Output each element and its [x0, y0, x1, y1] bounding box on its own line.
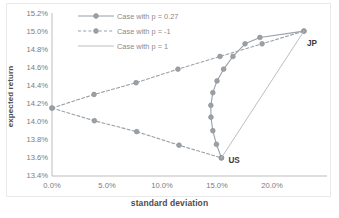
y-tick-label: 13.8%: [14, 135, 48, 144]
y-tick-label: 14.0%: [14, 117, 48, 126]
legend-label-2: Case with p = 1: [117, 42, 168, 51]
x-tick-label: 15.0%: [197, 181, 237, 190]
data-point-marker: [209, 115, 214, 120]
series-line: [211, 31, 304, 158]
data-point-marker: [210, 90, 215, 95]
y-tick-label: 15.0%: [14, 27, 48, 36]
data-point-marker: [92, 92, 97, 97]
x-tick-label: 0.0%: [32, 181, 72, 190]
y-tick-label: 13.6%: [14, 153, 48, 162]
data-point-marker: [208, 103, 213, 108]
annotation-us: US: [228, 156, 239, 165]
y-tick-label: 15.2%: [14, 9, 48, 18]
chart-figure: 15.2% 15.0% 14.8% 14.6% 14.4% 14.2% 14.0…: [0, 0, 339, 218]
x-tick-label: 10.0%: [142, 181, 182, 190]
data-point-marker: [243, 41, 248, 46]
y-tick-label: 13.4%: [14, 171, 48, 180]
data-point-marker: [134, 80, 139, 85]
x-tick-label: 20.0%: [252, 181, 292, 190]
data-point-marker: [231, 54, 236, 59]
data-point-marker: [210, 128, 215, 133]
legend-swatch-marker: [94, 29, 99, 34]
data-point-marker: [176, 67, 181, 72]
legend-swatch-marker: [94, 14, 99, 19]
data-point-marker: [177, 143, 182, 148]
data-point-marker: [215, 79, 220, 84]
series-line: [221, 31, 304, 158]
annotation-jp: JP: [307, 39, 317, 48]
data-point-marker: [221, 67, 226, 72]
y-tick-label: 14.2%: [14, 99, 48, 108]
data-point-marker: [260, 41, 265, 46]
x-axis-title: standard deviation: [0, 198, 339, 208]
data-point-marker: [214, 142, 219, 147]
data-point-marker: [50, 106, 55, 111]
data-point-marker: [92, 118, 97, 123]
y-tick-label: 14.6%: [14, 63, 48, 72]
x-tick-label: 5.0%: [87, 181, 127, 190]
data-point-marker: [218, 54, 223, 59]
legend-label-0: Case with p = 0.27: [117, 12, 178, 21]
y-tick-label: 14.8%: [14, 45, 48, 54]
data-point-marker: [258, 35, 263, 40]
legend-label-1: Case with p = -1: [117, 27, 171, 36]
y-axis-title: expected return: [6, 54, 15, 140]
y-tick-label: 14.4%: [14, 81, 48, 90]
data-point-marker: [134, 129, 139, 134]
